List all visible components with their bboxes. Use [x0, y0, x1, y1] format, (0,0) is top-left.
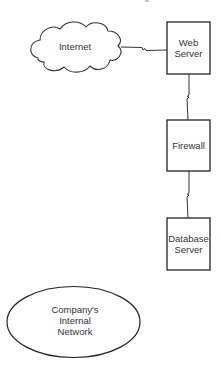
- lightning-connector-webserver-firewall: [187, 74, 189, 120]
- clipped-title-fragment: [145, 0, 149, 2]
- lightning-connector-firewall-database: [187, 171, 189, 218]
- internet-label: Internet: [50, 41, 100, 52]
- database-server-label: Database Server: [165, 233, 212, 255]
- internal-network-label: Company's Internal Network: [40, 304, 110, 337]
- lightning-connector-internet-webserver: [121, 47, 167, 51]
- firewall-label: Firewall: [167, 140, 210, 151]
- web-server-label: Web Server: [167, 37, 210, 59]
